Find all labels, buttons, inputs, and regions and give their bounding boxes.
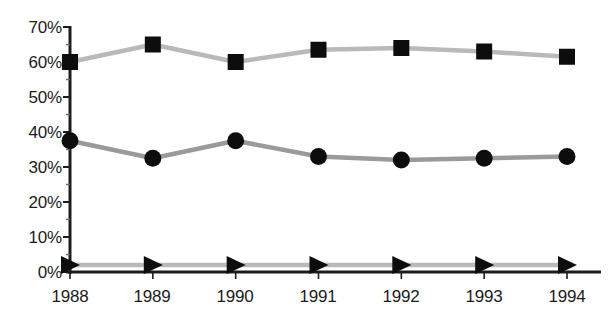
x-tick-label-1994: 1994 xyxy=(548,288,585,305)
x-tick-label-1993: 1993 xyxy=(465,288,502,305)
x-tick-label-1989: 1989 xyxy=(133,288,170,305)
x-axis-tick-labels: 1988 1989 1990 1991 1992 1993 1994 xyxy=(0,0,612,318)
x-tick-label-1990: 1990 xyxy=(216,288,253,305)
x-tick-label-1992: 1992 xyxy=(382,288,419,305)
line-chart: 70% 60% 50% 40% 30% 20% 10% 0% 1988 1989… xyxy=(0,0,612,318)
x-tick-label-1991: 1991 xyxy=(299,288,336,305)
x-tick-label-1988: 1988 xyxy=(51,288,88,305)
